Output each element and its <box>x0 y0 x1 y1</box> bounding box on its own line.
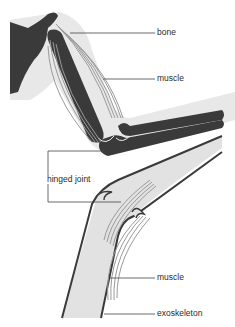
label-hinged-joint: hinged joint <box>47 175 90 184</box>
endoskeleton-arm <box>10 12 235 156</box>
skeleton-diagram <box>0 0 235 327</box>
label-exoskeleton: exoskeleton <box>157 309 202 318</box>
label-muscle-lower: muscle <box>157 273 184 282</box>
label-muscle-upper: muscle <box>157 74 184 83</box>
exoskeleton-limb <box>62 136 222 318</box>
label-bone: bone <box>157 28 176 37</box>
